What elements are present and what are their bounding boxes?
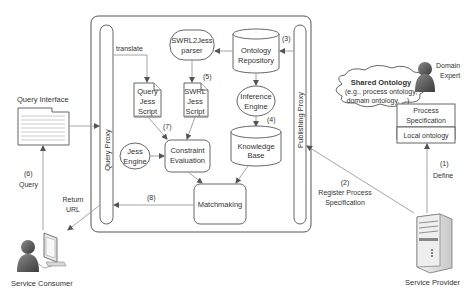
query-proxy-label: Query Proxy bbox=[103, 129, 112, 171]
svg-text:Process: Process bbox=[413, 107, 439, 114]
svg-text:Repository: Repository bbox=[238, 56, 274, 65]
translate-label: translate bbox=[116, 45, 143, 52]
swrl2jess-parser-node: SWRL2Jess parser bbox=[170, 30, 214, 60]
step-7-label: (7) bbox=[163, 123, 172, 131]
svg-text:Script: Script bbox=[138, 107, 158, 116]
service-provider-label: Service Provider bbox=[405, 278, 461, 287]
service-consumer-label: Service Consumer bbox=[11, 279, 73, 288]
svg-text:Script: Script bbox=[185, 107, 205, 116]
jess-engine-node: Jess Engine bbox=[120, 143, 150, 169]
service-provider-server-icon bbox=[417, 214, 452, 273]
svg-text:Jess: Jess bbox=[140, 97, 156, 106]
shared-ontology-title: Shared Ontology bbox=[351, 78, 412, 87]
svg-text:(e.g., process ontology,: (e.g., process ontology, bbox=[345, 88, 417, 96]
svg-text:Specification: Specification bbox=[325, 199, 365, 207]
ontology-repository-node: Ontology Repository bbox=[233, 29, 279, 73]
step-6-label: (6) bbox=[24, 170, 33, 178]
svg-text:Matchmaking: Matchmaking bbox=[198, 200, 243, 209]
step-8-label: (8) bbox=[147, 194, 156, 202]
query-label: Query bbox=[19, 181, 39, 189]
query-interface: Query Interface bbox=[17, 95, 69, 145]
svg-text:Constraint: Constraint bbox=[170, 146, 205, 155]
step-1-label: (1) bbox=[440, 160, 449, 168]
architecture-diagram: Query Proxy Publishing Proxy translate S… bbox=[0, 0, 476, 298]
domain-expert-label-line2: Expert bbox=[440, 72, 460, 80]
svg-text:Base: Base bbox=[247, 151, 264, 160]
define-label: Define bbox=[433, 172, 453, 179]
svg-text:Engine: Engine bbox=[123, 157, 146, 166]
step-3-label: (3) bbox=[282, 35, 291, 43]
svg-text:Register Process: Register Process bbox=[318, 189, 372, 197]
process-specification-box: Process Specification Local ontology bbox=[397, 104, 455, 143]
svg-text:parser: parser bbox=[181, 46, 203, 55]
shared-ontology-cloud: Shared Ontology (e.g., process ontology,… bbox=[336, 65, 427, 106]
knowledge-base-node: Knowledge Base bbox=[231, 126, 281, 166]
svg-text:SWRL: SWRL bbox=[184, 87, 206, 96]
svg-text:Inference: Inference bbox=[240, 92, 271, 101]
local-ontology-label: Local ontology bbox=[403, 132, 449, 140]
constraint-evaluation-node: Constraint Evaluation bbox=[165, 140, 210, 172]
return-url-label-line1: Return bbox=[62, 196, 83, 203]
step-4-label: (4) bbox=[267, 116, 276, 124]
svg-text:Ontology: Ontology bbox=[241, 46, 271, 55]
matchmaking-node: Matchmaking bbox=[194, 184, 246, 224]
step-2-label: (2) bbox=[341, 179, 350, 187]
svg-text:Specification: Specification bbox=[406, 117, 446, 125]
query-interface-label: Query Interface bbox=[17, 95, 69, 104]
domain-expert-label-line1: Domain bbox=[436, 62, 460, 69]
service-consumer-icon bbox=[17, 233, 66, 272]
svg-text:Knowledge: Knowledge bbox=[237, 142, 274, 151]
svg-text:Jess: Jess bbox=[127, 147, 143, 156]
publishing-proxy: Publishing Proxy bbox=[294, 25, 306, 224]
svg-text:Engine: Engine bbox=[244, 102, 267, 111]
svg-text:SWRL2Jess: SWRL2Jess bbox=[171, 36, 213, 45]
query-jess-script-node: Query Jess Script bbox=[134, 83, 161, 117]
svg-text:Evaluation: Evaluation bbox=[170, 156, 205, 165]
svg-text:Jess: Jess bbox=[187, 97, 203, 106]
step-5-label: (5) bbox=[203, 73, 212, 81]
swrl-jess-script-node: SWRL Jess Script bbox=[184, 83, 208, 117]
publishing-proxy-label: Publishing Proxy bbox=[296, 92, 305, 148]
inference-engine-node: Inference Engine bbox=[237, 86, 275, 116]
return-url-label-line2: URL bbox=[66, 206, 80, 213]
query-proxy: Query Proxy bbox=[100, 25, 113, 224]
svg-text:Query: Query bbox=[137, 87, 158, 96]
